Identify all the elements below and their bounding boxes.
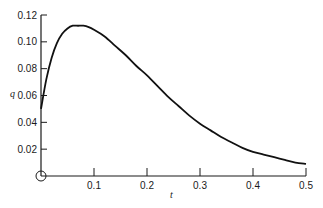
x-tick-label: 0.1 (87, 180, 101, 191)
x-tick-label: 0.2 (140, 180, 154, 191)
x-axis-label: t (170, 189, 173, 200)
axes (41, 15, 306, 176)
data-curve (41, 26, 306, 164)
x-tick-label: 0.4 (246, 180, 260, 191)
x-ticks: 0.10.20.30.40.5 (87, 168, 313, 191)
y-tick-label: 0.06 (18, 90, 38, 101)
y-ticks: 0.020.040.060.080.100.12 (18, 10, 47, 155)
x-tick-label: 0.5 (299, 180, 313, 191)
y-tick-label: 0.08 (18, 63, 38, 74)
y-axis-label: q (10, 88, 15, 99)
x-tick-label: 0.3 (193, 180, 207, 191)
y-tick-label: 0.04 (18, 117, 38, 128)
y-tick-label: 0.10 (18, 36, 38, 47)
line-chart: 0.020.040.060.080.100.12 0.10.20.30.40.5… (0, 0, 323, 208)
y-tick-label: 0.02 (18, 144, 38, 155)
y-tick-label: 0.12 (18, 10, 38, 21)
